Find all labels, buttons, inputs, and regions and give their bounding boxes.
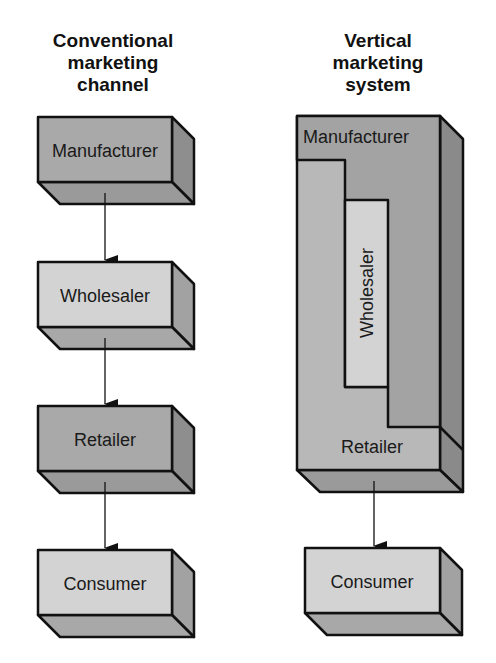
right-consumer-label: Consumer (330, 572, 413, 592)
left-retailer-label: Retailer (74, 430, 136, 450)
left-consumer-label: Consumer (63, 574, 146, 594)
left-manufacturer-box: Manufacturer (38, 117, 194, 204)
vms-wholesaler-label: Wholesaler (357, 248, 377, 338)
right-consumer-box: Consumer (305, 548, 462, 635)
left-consumer-box: Consumer (38, 550, 194, 637)
vertical-system-box: Manufacturer Wholesaler Retailer (297, 116, 463, 492)
left-manufacturer-label: Manufacturer (52, 141, 158, 161)
left-wholesaler-label: Wholesaler (60, 286, 150, 306)
diagram-canvas: Manufacturer Wholesaler Retailer Consume… (0, 0, 496, 663)
vms-retailer-label: Retailer (341, 437, 403, 457)
left-retailer-box: Retailer (38, 406, 194, 493)
left-wholesaler-box: Wholesaler (38, 262, 194, 349)
vms-manufacturer-label: Manufacturer (303, 127, 409, 147)
